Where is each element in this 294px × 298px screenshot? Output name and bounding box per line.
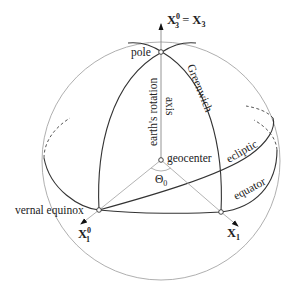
vernal-equinox-node xyxy=(97,208,102,213)
axis-x3-label: X03 = X3 xyxy=(167,12,205,30)
pole-node xyxy=(159,50,164,55)
rotation-axis-label-1: earth's rotation xyxy=(147,78,159,146)
ray-to-vernal xyxy=(99,160,161,210)
x1-0-extension xyxy=(81,210,99,224)
celestial-sphere-diagram: X03 = X3 pole Greenwich earth's rotation… xyxy=(0,0,294,298)
theta-angle-arc xyxy=(151,168,171,171)
pole-label: pole xyxy=(131,46,151,59)
geocenter-node xyxy=(159,158,164,163)
pole-arc-right xyxy=(162,43,196,52)
x1-equator-node xyxy=(219,210,224,215)
geocenter-label: geocenter xyxy=(167,152,212,165)
axis-x1-0-label: X01 xyxy=(78,226,91,244)
ray-to-x1 xyxy=(161,160,221,212)
axis-x1-label: X1 xyxy=(227,226,240,242)
equator-label: equator xyxy=(231,175,268,203)
ecliptic-circle xyxy=(99,118,274,210)
ecliptic-back-dashed xyxy=(246,106,273,118)
theta-label: Θ0 xyxy=(155,173,167,188)
x1-extension xyxy=(221,212,238,226)
rotation-axis-label-2: axis xyxy=(164,97,176,116)
greenwich-label: Greenwich xyxy=(185,62,215,114)
vernal-equinox-label: vernal equinox xyxy=(15,204,84,217)
